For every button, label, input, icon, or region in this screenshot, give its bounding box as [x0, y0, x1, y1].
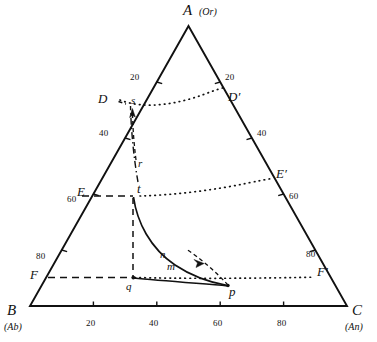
marker-point-q	[131, 276, 135, 280]
tick-left-40	[125, 138, 130, 140]
tick-label-left-80: 80	[36, 252, 45, 261]
vertex-mineral-B: (Ab)	[4, 322, 22, 332]
point-label-t: t	[137, 182, 141, 195]
figure-canvas: A (Or) B (Ab) C (An) 20 40 60 80 20 40 6…	[0, 0, 377, 342]
tick-right-20	[215, 82, 220, 84]
triangle-edges	[30, 26, 347, 306]
ticks-left	[62, 82, 163, 252]
tick-left-20	[157, 82, 162, 84]
ternary-diagram-svg	[0, 0, 377, 342]
isotherm-curve-EE-prime	[140, 179, 272, 197]
tick-right-40	[247, 138, 252, 140]
triangle-outline	[30, 26, 347, 306]
vertex-mineral-A: (Or)	[199, 7, 217, 17]
point-label-D: D	[98, 92, 107, 105]
point-label-m: m	[167, 261, 175, 272]
vertex-label-A: A	[183, 3, 192, 18]
point-label-q: q	[126, 281, 132, 292]
cooling-curve-t-to-p	[134, 197, 228, 286]
point-label-F-prime: F′	[317, 265, 328, 278]
point-label-E: E	[77, 185, 85, 198]
tick-label-right-80: 80	[306, 250, 315, 259]
point-label-s: s	[131, 95, 135, 106]
point-label-r: r	[138, 158, 142, 169]
tick-label-left-20: 20	[130, 73, 139, 82]
tick-right-60	[278, 194, 283, 196]
tick-label-bottom-20: 20	[86, 319, 95, 328]
point-label-F: F	[30, 268, 38, 281]
vertex-label-C: C	[352, 303, 362, 318]
ticks-right	[215, 82, 315, 252]
vertex-mineral-C: (An)	[345, 322, 363, 332]
tick-label-bottom-40: 40	[149, 319, 158, 328]
point-label-D-prime: D′	[228, 90, 240, 103]
tick-left-80	[62, 250, 67, 252]
isotherm-curve-FF-prime	[135, 277, 312, 278]
isotherm-curve-DD-prime	[120, 87, 226, 105]
tick-label-bottom-80: 80	[277, 319, 286, 328]
point-label-E-prime: E′	[276, 167, 287, 180]
point-label-p: p	[229, 285, 236, 298]
point-label-n: n	[160, 249, 166, 260]
vertex-label-B: B	[7, 303, 16, 318]
tick-label-right-20: 20	[225, 73, 234, 82]
tick-label-right-40: 40	[257, 129, 266, 138]
tick-label-left-40: 40	[99, 129, 108, 138]
tick-label-bottom-60: 60	[213, 319, 222, 328]
tick-label-left-60: 60	[67, 195, 76, 204]
tick-label-right-60: 60	[289, 192, 298, 201]
